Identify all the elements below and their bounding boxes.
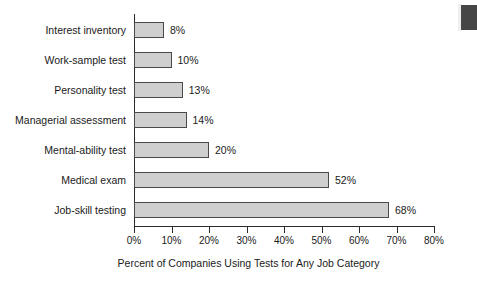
x-tick-0	[134, 227, 135, 233]
bar-value-label: 8%	[170, 22, 185, 38]
bar-value-label: 13%	[189, 82, 210, 98]
x-tick-label: 70%	[386, 235, 406, 247]
x-tick-label: 60%	[349, 235, 369, 247]
bar-row: 68%	[134, 195, 434, 225]
x-tick-60	[359, 227, 360, 233]
bar	[134, 202, 389, 218]
category-label: Managerial assessment	[15, 113, 126, 127]
category-label: Medical exam	[61, 173, 126, 187]
bar-value-label: 20%	[215, 142, 236, 158]
x-tick-20	[209, 227, 210, 233]
scan-edge-artifact	[461, 5, 477, 30]
bar-row: 10%	[134, 45, 434, 75]
bar	[134, 22, 164, 38]
x-tick-30	[247, 227, 248, 233]
bar	[134, 52, 172, 68]
category-label: Work-sample test	[45, 53, 127, 67]
x-tick-label: 10%	[161, 235, 181, 247]
bar-chart: 0%10%20%30%40%50%60%70%80% 8%10%13%14%20…	[0, 0, 477, 286]
category-label: Mental-ability test	[44, 143, 126, 157]
x-tick-10	[172, 227, 173, 233]
x-tick-70	[397, 227, 398, 233]
x-tick-label: 40%	[274, 235, 294, 247]
x-tick-label: 80%	[424, 235, 444, 247]
x-tick-label: 0%	[127, 235, 141, 247]
bar-row: 13%	[134, 75, 434, 105]
bar-row: 8%	[134, 15, 434, 45]
bar-value-label: 52%	[335, 172, 356, 188]
bar	[134, 172, 329, 188]
category-label: Interest inventory	[45, 23, 126, 37]
x-tick-80	[434, 227, 435, 233]
bar	[134, 112, 187, 128]
x-tick-40	[284, 227, 285, 233]
bar	[134, 142, 209, 158]
x-tick-label: 30%	[236, 235, 256, 247]
x-tick-label: 50%	[311, 235, 331, 247]
category-label: Job-skill testing	[54, 203, 126, 217]
bar-value-label: 10%	[178, 52, 199, 68]
bar-row: 20%	[134, 135, 434, 165]
x-tick-50	[322, 227, 323, 233]
bar-value-label: 68%	[395, 202, 416, 218]
bar-row: 14%	[134, 105, 434, 135]
x-tick-label: 20%	[199, 235, 219, 247]
bar-row: 52%	[134, 165, 434, 195]
category-label: Personality test	[54, 83, 126, 97]
x-axis-title: Percent of Companies Using Tests for Any…	[0, 256, 477, 270]
plot-area: 0%10%20%30%40%50%60%70%80% 8%10%13%14%20…	[134, 14, 434, 226]
bar	[134, 82, 183, 98]
bar-value-label: 14%	[193, 112, 214, 128]
